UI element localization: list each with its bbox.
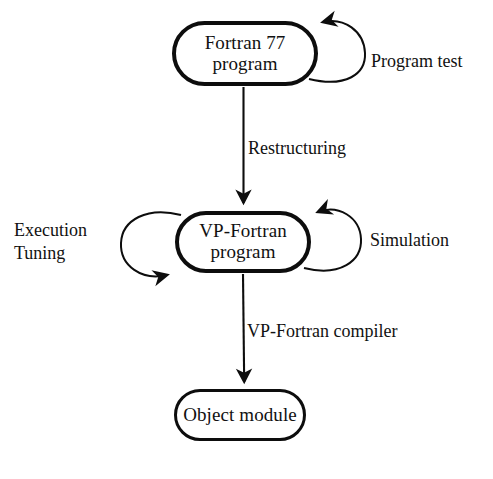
node-fortran77-label-line1: Fortran 77 (205, 33, 286, 54)
self-loop-label-execution-tuning: Execution Tuning (14, 219, 87, 265)
self-loop-label-execution-tuning-line1: Execution (14, 219, 87, 242)
self-loop-simulation (304, 210, 361, 271)
node-fortran77-program[interactable]: Fortran 77 program (172, 21, 318, 86)
edge-vp-fortran-compiler (243, 274, 244, 382)
node-vp-fortran-label-line1: VP-Fortran (199, 221, 287, 242)
self-loop-label-simulation: Simulation (370, 229, 449, 252)
node-vp-fortran-label-line2: program (210, 242, 275, 263)
self-loop-execution-tuning (121, 212, 181, 276)
node-fortran77-label-line2: program (212, 54, 277, 75)
diagram-canvas: Fortran 77 program VP-Fortran program Ob… (0, 0, 493, 479)
edge-label-restructuring: Restructuring (248, 137, 346, 160)
self-loop-label-execution-tuning-line2: Tuning (14, 242, 87, 265)
self-loop-label-program-test: Program test (371, 50, 463, 73)
node-object-module-label: Object module (183, 405, 297, 426)
edge-label-vp-fortran-compiler: VP-Fortran compiler (247, 320, 397, 343)
node-vp-fortran-program[interactable]: VP-Fortran program (175, 211, 311, 273)
node-object-module[interactable]: Object module (174, 389, 306, 441)
